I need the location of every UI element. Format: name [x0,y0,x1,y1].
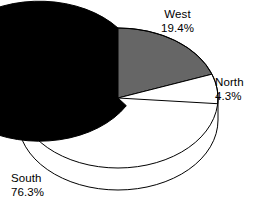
pie-label-west: West 19.4% [161,7,194,35]
pie-label-north-name: North [215,75,244,89]
pie-label-north: North 4.3% [215,75,244,103]
pie-label-west-name: West [161,7,194,21]
pie-label-south-value: 76.3% [11,185,44,199]
pie-label-north-value: 4.3% [215,89,244,103]
pie-label-south: South 76.3% [11,171,44,199]
pie-label-south-name: South [11,171,44,185]
pie-label-west-value: 19.4% [161,21,194,35]
pie-chart: West 19.4% North 4.3% South 76.3% [0,0,260,214]
pie-slice-south[interactable] [0,1,126,141]
